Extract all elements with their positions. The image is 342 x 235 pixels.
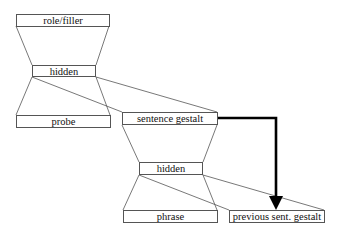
previous-sent-gestalt-layer: previous sent. gestalt <box>229 210 325 223</box>
connector-line <box>203 125 217 162</box>
connector-line <box>96 77 110 115</box>
role-filler-label: role/filler <box>43 15 83 26</box>
hidden-bottom-label: hidden <box>157 163 186 174</box>
connector-line <box>203 175 324 210</box>
connector-line <box>96 26 109 65</box>
hidden-top-label: hidden <box>50 66 79 77</box>
probe-label: probe <box>52 116 76 127</box>
connector-line <box>32 77 122 112</box>
connector-line <box>122 125 139 162</box>
connector-line <box>16 26 32 65</box>
hidden-layer-top: hidden <box>32 65 96 77</box>
sentence-gestalt-layer: sentence gestalt <box>122 112 218 125</box>
role-filler-layer: role/filler <box>16 14 110 27</box>
connector-line <box>96 77 217 112</box>
phrase-label: phrase <box>157 211 184 222</box>
connector-line <box>139 175 229 210</box>
copy-arrow <box>217 118 276 198</box>
connector-line <box>123 175 139 210</box>
previous-sent-gestalt-label: previous sent. gestalt <box>233 211 321 222</box>
probe-layer: probe <box>16 115 111 128</box>
connector-line <box>16 77 32 115</box>
phrase-layer: phrase <box>123 210 218 223</box>
arrowhead-icon <box>269 196 283 210</box>
sentence-gestalt-label: sentence gestalt <box>137 113 203 124</box>
hidden-layer-bottom: hidden <box>139 162 203 175</box>
